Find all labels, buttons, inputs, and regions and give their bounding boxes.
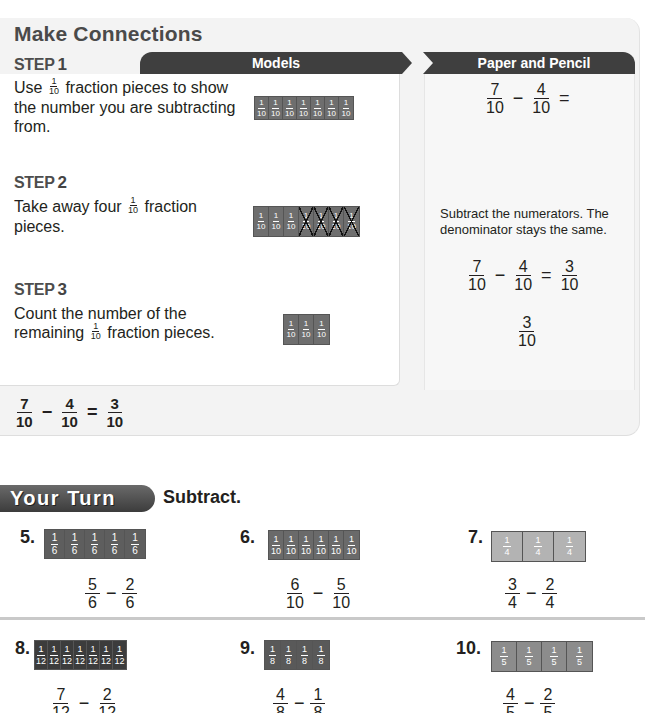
equals-sign: = xyxy=(87,402,98,423)
piece-denominator: 10 xyxy=(331,546,341,556)
exercise-6-expression: 610−510 xyxy=(280,576,356,611)
fraction-piece: 110 xyxy=(344,207,359,236)
your-turn-badge: Your Turn xyxy=(0,485,155,512)
fraction-strip-step-3: 110110110 xyxy=(283,314,330,345)
piece-denominator: 10 xyxy=(271,546,281,556)
piece-numerator: 1 xyxy=(348,535,355,546)
exercise-10-number: 10. xyxy=(456,638,481,659)
piece-numerator: 1 xyxy=(286,99,292,109)
numerator: 2 xyxy=(100,686,115,704)
denominator: 10 xyxy=(529,99,553,116)
piece-denominator: 10 xyxy=(317,222,326,231)
step-text-before: Use xyxy=(14,79,42,96)
piece-denominator: 5 xyxy=(577,657,582,667)
fraction-a: 610 xyxy=(283,576,307,611)
summary-equation: 710 − 410 = 310 xyxy=(10,395,129,430)
fraction-piece: 110 xyxy=(284,207,299,236)
numerator: 4 xyxy=(62,395,76,413)
fraction-piece: 110 xyxy=(314,207,329,236)
piece-denominator: 5 xyxy=(526,657,531,667)
piece-numerator: 1 xyxy=(131,533,139,545)
piece-numerator: 1 xyxy=(89,645,96,656)
fraction-piece: 110 xyxy=(269,207,284,236)
piece-denominator: 6 xyxy=(92,545,98,556)
fraction-piece: 112 xyxy=(74,641,87,669)
fraction-piece: 110 xyxy=(299,531,314,559)
row-divider xyxy=(0,617,645,620)
fraction-piece: 110 xyxy=(329,207,344,236)
exercise-7-expression: 34−24 xyxy=(502,576,560,611)
fraction-piece: 15 xyxy=(492,642,517,671)
fraction-piece: 110 xyxy=(325,97,339,119)
fraction-piece: 112 xyxy=(48,641,61,669)
step-number: 2 xyxy=(58,173,67,192)
inline-fraction: 110 xyxy=(91,322,101,341)
piece-numerator: 1 xyxy=(343,99,349,109)
step-number: 1 xyxy=(58,55,67,74)
exercise-9-expression: 48−18 xyxy=(270,686,328,713)
piece-numerator: 1 xyxy=(269,645,276,656)
fraction-piece: 16 xyxy=(45,530,65,558)
fraction-piece: 15 xyxy=(567,642,592,671)
denominator: 6 xyxy=(85,594,100,611)
numerator: 2 xyxy=(122,576,137,594)
fraction-piece: 112 xyxy=(35,641,48,669)
denominator: 10 xyxy=(283,594,307,611)
piece-denominator: 8 xyxy=(302,656,307,666)
fraction-piece: 14 xyxy=(492,532,523,561)
numerator: 4 xyxy=(534,81,549,99)
piece-denominator: 10 xyxy=(346,546,356,556)
inline-fraction: 110 xyxy=(49,77,59,96)
denominator: 10 xyxy=(558,276,582,293)
fraction-result: 310 xyxy=(103,395,126,430)
numerator: 4 xyxy=(503,686,518,704)
piece-numerator: 1 xyxy=(332,535,339,546)
exercise-7-number: 7. xyxy=(468,527,483,548)
denominator: 10 xyxy=(13,413,36,430)
piece-denominator: 10 xyxy=(342,109,351,118)
minus-sign: − xyxy=(526,583,537,604)
piece-numerator: 1 xyxy=(288,320,294,330)
piece-denominator: 10 xyxy=(257,222,266,231)
exercise-6-number: 6. xyxy=(240,527,255,548)
piece-denominator: 5 xyxy=(501,657,506,667)
denominator: 8 xyxy=(273,704,288,713)
piece-numerator: 1 xyxy=(302,535,309,546)
exercise-8-strip: 112112112112112112112 xyxy=(34,640,127,670)
piece-numerator: 1 xyxy=(76,645,83,656)
piece-numerator: 1 xyxy=(111,533,119,545)
fraction-piece: 110 xyxy=(255,97,269,119)
fraction-piece: 110 xyxy=(269,97,283,119)
fraction-piece: 110 xyxy=(339,97,353,119)
piece-numerator: 1 xyxy=(333,212,339,222)
fraction-piece: 110 xyxy=(311,97,325,119)
numerator: 4 xyxy=(516,258,531,276)
piece-numerator: 1 xyxy=(50,645,57,656)
piece-denominator: 6 xyxy=(52,545,58,556)
fraction-piece: 110 xyxy=(254,207,269,236)
inline-fraction: 110 xyxy=(128,196,138,215)
fraction-piece: 110 xyxy=(299,207,314,236)
denominator: 10 xyxy=(128,206,138,215)
denominator: 10 xyxy=(103,413,126,430)
fraction-a: 710 xyxy=(483,81,507,116)
exercise-8-number: 8. xyxy=(15,638,30,659)
minus-sign: − xyxy=(313,583,324,604)
fraction-piece: 16 xyxy=(65,530,85,558)
piece-numerator: 1 xyxy=(272,99,278,109)
minus-sign: − xyxy=(294,693,305,713)
denominator: 8 xyxy=(310,704,325,713)
piece-numerator: 1 xyxy=(318,212,324,222)
exercise-9-strip: 18181818 xyxy=(264,640,330,670)
exercise-7-strip: 141414 xyxy=(491,531,586,562)
equals-sign: = xyxy=(559,88,570,109)
piece-numerator: 1 xyxy=(534,536,541,547)
numerator: 5 xyxy=(85,576,100,594)
piece-denominator: 10 xyxy=(316,546,326,556)
piece-numerator: 1 xyxy=(576,646,583,657)
fraction-piece: 112 xyxy=(87,641,100,669)
section-title: Make Connections xyxy=(14,22,203,46)
fraction-piece: 16 xyxy=(105,530,125,558)
piece-numerator: 1 xyxy=(328,99,334,109)
fraction-piece: 15 xyxy=(517,642,542,671)
